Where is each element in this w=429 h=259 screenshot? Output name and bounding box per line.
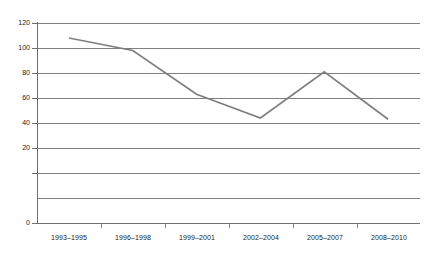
line-chart: 120 100 80 60 40 20 0 1993–1995 1996–199… [0,0,429,259]
series-layer [0,0,429,259]
series-line-1 [69,38,388,119]
